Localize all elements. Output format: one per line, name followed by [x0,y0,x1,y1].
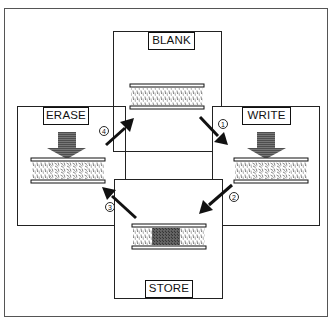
diagram-graphics: 1 2 3 4 [0,0,333,322]
layer-stack-erase [31,158,105,183]
layer-stack-store [132,224,206,249]
transition-arrow-3-icon [102,187,136,218]
svg-text:3: 3 [108,204,112,211]
layer-stack-write [234,158,308,183]
svg-text:1: 1 [221,121,225,128]
step-badge-3: 3 [106,203,115,212]
erase-heat-arrow-icon [47,132,86,159]
write-heat-arrow-icon [247,132,286,159]
layer-stack-blank [130,84,204,109]
svg-text:2: 2 [232,194,236,201]
step-badge-1: 1 [219,120,228,129]
step-badge-2: 2 [230,193,239,202]
transition-arrow-2-icon [199,185,232,214]
step-badge-4: 4 [100,127,109,136]
transition-arrow-4-icon [106,118,134,145]
svg-text:4: 4 [102,128,106,135]
